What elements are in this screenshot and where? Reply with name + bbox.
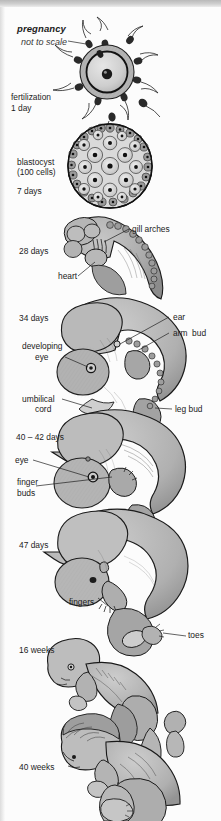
callout-finger-buds-1: finger — [17, 477, 38, 488]
stage-label-47-days: 47 days — [19, 540, 48, 551]
stage-label-16-weeks: 16 weeks — [19, 645, 54, 656]
callout-leader-lines — [33, 41, 186, 636]
illustration-embryo-34-days — [57, 298, 186, 432]
illustration-blastocyst — [68, 124, 153, 208]
stage-label-40-42-days: 40 – 42 days — [16, 432, 64, 443]
callout-gill-arches: gill arches — [132, 224, 170, 235]
callout-eye: eye — [15, 455, 29, 466]
illustration-fetus-40-weeks — [61, 711, 185, 821]
illustration-embryo-47-days — [44, 509, 188, 656]
callout-arm-bud: arm bud — [173, 328, 206, 339]
top-gray-band — [0, 0, 221, 7]
callout-umbilical-2: cord — [35, 404, 51, 415]
callout-developing-eye-2: eye — [35, 352, 49, 363]
stage-label-blastocyst-3: 7 days — [17, 186, 42, 197]
figure-subtitle: not to scale — [21, 37, 67, 47]
callout-leg-bud: leg bud — [175, 404, 202, 415]
left-page-edge — [0, 7, 5, 821]
callout-umbilical-1: umbilical — [22, 394, 55, 405]
callout-ear: ear — [173, 312, 185, 323]
illustration-fetus-16-weeks — [48, 638, 163, 780]
callout-developing-eye-1: developing — [22, 341, 63, 352]
illustration-embryo-40-42-days — [52, 410, 186, 541]
callout-toes: toes — [188, 630, 204, 641]
pregnancy-development-figure: pregnancy not to scale fertilization 1 d… — [0, 0, 221, 821]
stage-label-blastocyst-1: blastocyst — [17, 157, 54, 168]
stage-label-fertilization-2: 1 day — [11, 103, 32, 114]
figure-title: pregnancy — [17, 23, 66, 34]
callout-fingers: fingers — [69, 597, 94, 608]
stage-label-fertilization-1: fertilization — [11, 92, 51, 103]
stage-label-28-days: 28 days — [19, 246, 48, 257]
callout-finger-buds-2: buds — [17, 488, 35, 499]
stage-label-blastocyst-2: (100 cells) — [17, 167, 56, 178]
callout-heart: heart — [58, 271, 77, 282]
illustration-fertilization — [53, 17, 160, 136]
stage-label-40-weeks: 40 weeks — [19, 762, 54, 773]
stage-label-34-days: 34 days — [19, 313, 48, 324]
